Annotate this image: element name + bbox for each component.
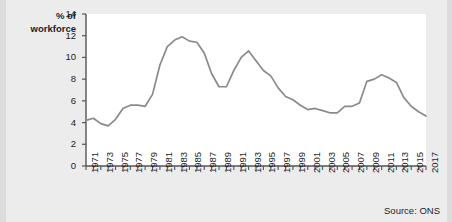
- x-tick-label: 2007: [356, 152, 366, 173]
- y-tick-label: 10: [56, 52, 76, 62]
- x-tick-label: 2013: [400, 152, 410, 173]
- chart-figure: % of workforce 02468101214 1971197319751…: [0, 0, 452, 222]
- x-tick-label: 1971: [90, 152, 100, 173]
- x-tick-label: 1991: [238, 152, 248, 173]
- y-tick-label: 0: [56, 161, 76, 171]
- x-tick-label: 1985: [193, 152, 203, 173]
- x-tick-label: 2015: [415, 152, 425, 173]
- x-tick-label: 2005: [341, 152, 351, 173]
- x-tick-label: 1997: [282, 152, 292, 173]
- x-tick-label: 2011: [386, 153, 396, 173]
- x-tick-label: 1987: [208, 152, 218, 173]
- y-tick-label: 2: [56, 139, 76, 149]
- y-tick-label: 12: [56, 31, 76, 41]
- y-tick-label: 8: [56, 74, 76, 84]
- plot-area: % of workforce 02468101214 1971197319751…: [0, 0, 452, 222]
- y-tick-label: 4: [56, 118, 76, 128]
- x-tick-label: 1975: [120, 152, 130, 173]
- y-tick-label: 6: [56, 96, 76, 106]
- x-tick-label: 1973: [105, 152, 115, 173]
- y-tick-label: 14: [56, 9, 76, 19]
- x-tick-label: 2003: [327, 152, 337, 173]
- plot-background: [86, 14, 426, 166]
- x-tick-label: 2001: [312, 152, 322, 173]
- x-tick-label: 2017: [430, 152, 440, 173]
- source-note: Source: ONS: [384, 205, 440, 216]
- x-tick-label: 1977: [134, 152, 144, 173]
- x-tick-label: 1995: [267, 152, 277, 173]
- x-tick-label: 1979: [149, 152, 159, 173]
- x-tick-label: 1989: [223, 152, 233, 173]
- x-tick-label: 1993: [253, 152, 263, 173]
- x-tick-label: 1999: [297, 152, 307, 173]
- x-tick-label: 1983: [179, 152, 189, 173]
- x-tick-label: 2009: [371, 152, 381, 173]
- x-tick-label: 1981: [164, 152, 174, 173]
